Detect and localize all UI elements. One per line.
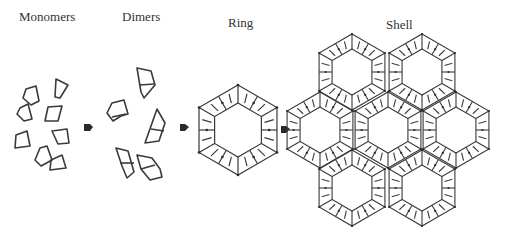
assembly-diagram — [0, 0, 510, 235]
arrow-right-icon — [180, 124, 189, 131]
dimers-group — [107, 68, 165, 180]
ring-hexagon — [198, 84, 279, 177]
shell-lattice — [286, 33, 490, 227]
monomers-group — [15, 79, 69, 170]
arrow-right-icon — [84, 124, 93, 131]
